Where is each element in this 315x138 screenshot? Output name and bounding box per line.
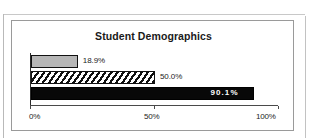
axis-tick-label: 100% [256, 112, 276, 121]
axis-tick [30, 106, 31, 109]
scan-artifact-left-edge [3, 14, 4, 138]
axis-tick [154, 106, 155, 109]
chart-container: Student Demographics 18.9% 50.0% 90.1% 0… [11, 20, 294, 131]
axis-tick-label: 50% [144, 112, 159, 121]
axis-tick [278, 106, 279, 109]
bar-value-label: 50.0% [160, 72, 182, 81]
bar-gray[interactable] [31, 55, 78, 68]
bar-value-label: 90.1% [210, 88, 238, 97]
bar-value-label: 18.9% [83, 56, 105, 65]
axis-tick-label: 0% [29, 112, 40, 121]
bar-hatched[interactable] [31, 71, 155, 84]
scan-artifact-top-edge [3, 14, 305, 15]
scan-artifact-right-edge [305, 16, 306, 138]
plot-area: 18.9% 50.0% 90.1% [30, 53, 278, 105]
chart-title: Student Demographics [12, 30, 295, 42]
